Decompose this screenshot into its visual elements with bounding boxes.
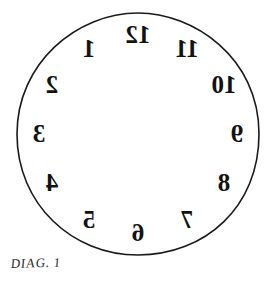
clock-numeral-2: 2 xyxy=(32,70,72,100)
clock-numeral-11: 11 xyxy=(167,34,207,64)
clock-numeral-1: 1 xyxy=(69,34,109,64)
clock-numeral-4: 4 xyxy=(32,168,72,198)
clock-numeral-12: 12 xyxy=(118,20,158,50)
clock-numeral-10: 10 xyxy=(204,70,244,100)
clock-numeral-6: 6 xyxy=(118,218,158,248)
clock-numeral-9: 9 xyxy=(217,119,257,149)
diagram-canvas: 121110987654321 DIAG. 1 xyxy=(0,0,279,282)
clock-numeral-8: 8 xyxy=(204,168,244,198)
figure-caption: DIAG. 1 xyxy=(10,255,61,272)
clock-numeral-7: 7 xyxy=(167,205,207,235)
clock-numeral-3: 3 xyxy=(19,119,59,149)
clock-numeral-5: 5 xyxy=(69,205,109,235)
